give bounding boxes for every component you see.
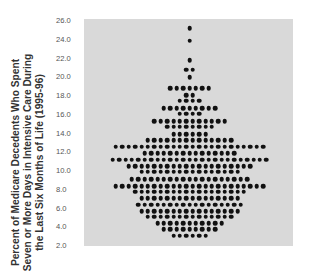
data-point bbox=[190, 98, 195, 103]
y-tick-label: 10.0 bbox=[56, 166, 82, 175]
data-point bbox=[162, 227, 167, 232]
data-point bbox=[184, 98, 189, 103]
data-point bbox=[165, 196, 170, 201]
data-point bbox=[178, 98, 183, 103]
data-point bbox=[174, 151, 179, 156]
y-tick-label: 6.0 bbox=[56, 203, 82, 212]
data-point bbox=[219, 157, 224, 162]
data-point bbox=[171, 138, 176, 143]
data-point bbox=[229, 138, 234, 143]
data-point bbox=[178, 170, 183, 175]
data-point bbox=[229, 144, 234, 149]
data-point bbox=[155, 177, 160, 182]
data-point bbox=[190, 189, 195, 194]
data-point bbox=[184, 170, 189, 175]
data-point bbox=[181, 177, 186, 182]
data-point bbox=[261, 144, 266, 149]
data-point bbox=[210, 170, 215, 175]
data-point bbox=[152, 189, 157, 194]
data-point bbox=[184, 196, 189, 201]
data-point bbox=[187, 221, 192, 226]
data-point bbox=[136, 177, 141, 182]
data-point bbox=[174, 86, 179, 91]
data-point bbox=[197, 233, 202, 238]
data-point bbox=[120, 184, 125, 189]
data-point bbox=[133, 189, 138, 194]
data-point bbox=[206, 151, 211, 156]
data-point bbox=[229, 196, 234, 201]
data-point bbox=[158, 196, 163, 201]
y-tick-label: 14.0 bbox=[56, 128, 82, 137]
data-point bbox=[242, 144, 247, 149]
data-point bbox=[190, 170, 195, 175]
data-point bbox=[190, 93, 195, 98]
data-point bbox=[174, 202, 179, 207]
data-point bbox=[203, 189, 208, 194]
data-point bbox=[226, 157, 231, 162]
data-point bbox=[133, 144, 138, 149]
y-tick-label: 22.0 bbox=[56, 53, 82, 62]
data-point bbox=[248, 144, 253, 149]
data-point bbox=[152, 209, 157, 214]
data-point bbox=[222, 184, 227, 189]
data-point bbox=[136, 157, 141, 162]
data-point bbox=[200, 106, 205, 111]
data-point bbox=[222, 189, 227, 194]
data-point bbox=[184, 184, 189, 189]
data-point bbox=[187, 58, 192, 63]
data-point bbox=[203, 170, 208, 175]
data-point bbox=[216, 138, 221, 143]
data-point bbox=[178, 132, 183, 137]
data-point bbox=[146, 170, 151, 175]
data-point bbox=[216, 164, 221, 169]
data-point bbox=[178, 215, 183, 220]
data-point bbox=[235, 189, 240, 194]
data-point bbox=[152, 164, 157, 169]
data-point bbox=[229, 209, 234, 214]
data-point bbox=[136, 202, 141, 207]
data-point bbox=[162, 157, 167, 162]
data-point bbox=[206, 221, 211, 226]
data-point bbox=[126, 164, 131, 169]
data-point bbox=[168, 151, 173, 156]
data-point bbox=[117, 157, 122, 162]
data-point bbox=[226, 202, 231, 207]
data-point bbox=[178, 189, 183, 194]
data-point bbox=[216, 144, 221, 149]
data-point bbox=[158, 184, 163, 189]
data-point bbox=[181, 86, 186, 91]
data-point bbox=[226, 151, 231, 156]
data-point bbox=[168, 202, 173, 207]
data-point bbox=[206, 106, 211, 111]
data-point bbox=[203, 233, 208, 238]
data-point bbox=[146, 138, 151, 143]
data-point bbox=[152, 184, 157, 189]
data-point bbox=[171, 164, 176, 169]
data-point bbox=[178, 233, 183, 238]
data-point bbox=[229, 170, 234, 175]
data-point bbox=[216, 170, 221, 175]
data-point bbox=[187, 227, 192, 232]
data-point bbox=[187, 202, 192, 207]
data-point bbox=[184, 138, 189, 143]
data-point bbox=[146, 144, 151, 149]
data-point bbox=[146, 196, 151, 201]
data-point bbox=[203, 138, 208, 143]
data-point bbox=[190, 233, 195, 238]
data-point bbox=[197, 164, 202, 169]
data-point bbox=[181, 151, 186, 156]
data-point bbox=[197, 184, 202, 189]
data-point bbox=[203, 184, 208, 189]
data-point bbox=[171, 189, 176, 194]
data-point bbox=[235, 209, 240, 214]
data-point bbox=[216, 184, 221, 189]
data-point bbox=[235, 164, 240, 169]
data-point bbox=[158, 170, 163, 175]
data-point bbox=[162, 151, 167, 156]
data-point bbox=[222, 164, 227, 169]
y-tick-label: 2.0 bbox=[56, 241, 82, 250]
data-point bbox=[168, 177, 173, 182]
data-point bbox=[184, 119, 189, 124]
data-point bbox=[158, 209, 163, 214]
data-point bbox=[178, 119, 183, 124]
